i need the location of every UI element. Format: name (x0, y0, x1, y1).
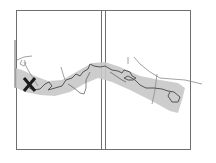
corridor-buffer (15, 62, 185, 113)
tributary-line (20, 60, 26, 66)
tributary-line (61, 67, 65, 80)
route-map (0, 0, 216, 163)
tributary-line (17, 56, 32, 60)
